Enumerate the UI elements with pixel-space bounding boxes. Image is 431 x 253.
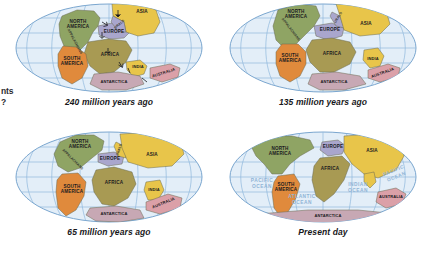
- label-antarctica: ANTARCTICA: [101, 211, 128, 216]
- label-india: INDIA: [132, 64, 143, 69]
- label-pacific-ocean-west-line2: OCEAN: [252, 184, 272, 189]
- label-africa: AFRICA: [105, 180, 124, 185]
- label-atlantic-ocean-line1: ATLANTIC: [288, 194, 316, 199]
- continent-asia: [120, 132, 184, 168]
- caption-panel-present-day: Present day: [228, 227, 418, 237]
- label-africa: AFRICA: [321, 166, 340, 171]
- label-south-america-line2: AMERICA: [279, 58, 302, 63]
- label-antarctica: ANTARCTICA: [101, 79, 128, 84]
- label-south-america-line2: AMERICA: [61, 189, 84, 194]
- panel-65ma: NORTH AMERICA APPALACHIANS EUROPE URALS …: [14, 130, 204, 240]
- panel-240ma: NORTH AMERICA APPALACHIANS EUROPE URALS …: [14, 2, 204, 110]
- label-south-america-line2: AMERICA: [61, 61, 84, 66]
- caption-panel-135ma: 135 million years ago: [228, 97, 418, 107]
- label-asia: ASIA: [136, 9, 148, 14]
- label-north-america-line2: AMERICA: [269, 151, 292, 156]
- label-north-america-line2: AMERICA: [69, 144, 92, 149]
- caption-panel-65ma: 65 million years ago: [14, 227, 204, 237]
- globe-65ma: NORTH AMERICA APPALACHIANS EUROPE URALS …: [14, 130, 204, 224]
- label-north-america-line2: AMERICA: [285, 14, 308, 19]
- label-pacific-ocean-west-line1: PACIFIC: [251, 178, 273, 183]
- label-europe: EUROPE: [320, 27, 340, 32]
- label-australia: AUSTRALIA: [379, 194, 403, 199]
- panel-present-day: PACIFIC OCEAN ATLANTIC OCEAN INDIAN OCEA…: [228, 130, 418, 240]
- cropped-caption-line1: nts: [1, 86, 13, 96]
- label-india: INDIA: [148, 187, 159, 192]
- label-atlantic-ocean-line2: OCEAN: [292, 200, 312, 205]
- label-india: INDIA: [367, 56, 378, 61]
- continental-drift-figure: nts ?: [0, 0, 431, 253]
- label-europe: EUROPE: [104, 29, 124, 34]
- label-asia: ASIA: [146, 152, 158, 157]
- label-europe: EUROPE: [323, 144, 343, 149]
- label-asia: ASIA: [360, 21, 372, 26]
- label-indian-ocean-line2: OCEAN: [348, 188, 368, 193]
- globe-135ma: NORTH AMERICA APPALACHIANS EUROPE URALS …: [228, 2, 418, 94]
- label-asia: ASIA: [366, 148, 378, 153]
- label-indian-ocean-line1: INDIAN: [348, 182, 368, 187]
- label-antarctica: ANTARCTICA: [321, 79, 348, 84]
- label-africa: AFRICA: [101, 52, 120, 57]
- caption-panel-240ma: 240 million years ago: [14, 97, 204, 107]
- panel-135ma: NORTH AMERICA APPALACHIANS EUROPE URALS …: [228, 2, 418, 110]
- label-europe: EUROPE: [100, 156, 120, 161]
- label-south-america-line2: AMERICA: [275, 187, 298, 192]
- globe-present-day: PACIFIC OCEAN ATLANTIC OCEAN INDIAN OCEA…: [228, 130, 418, 224]
- label-africa: AFRICA: [323, 51, 342, 56]
- cropped-caption-line2: ?: [1, 97, 6, 107]
- label-antarctica: ANTARCTICA: [315, 213, 342, 218]
- globe-240ma: NORTH AMERICA APPALACHIANS EUROPE URALS …: [14, 2, 204, 94]
